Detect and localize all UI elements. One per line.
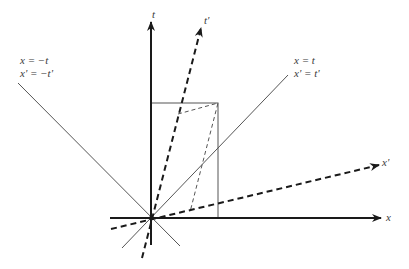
- x-prime-axis-label: x': [382, 156, 389, 169]
- light-line-left-label: x = −t x' = −t': [20, 54, 53, 80]
- rest-frame-box: [151, 103, 218, 218]
- light-line-left: [18, 83, 180, 246]
- diagram-canvas: [0, 0, 409, 269]
- spacetime-diagram: t t' x x' x = t x' = t' x = −t x' = −t': [0, 0, 409, 269]
- light-line-left-eq1: x = −t: [20, 54, 53, 67]
- light-line-right-eq1: x = t: [294, 54, 320, 67]
- x-axis-label: x: [386, 211, 391, 224]
- t-prime-axis-label: t': [204, 14, 209, 27]
- boosted-parallelogram: [178, 103, 218, 212]
- origin-point: [149, 216, 153, 220]
- light-line-right-eq2: x' = t': [294, 67, 320, 80]
- light-line-right-label: x = t x' = t': [294, 54, 320, 80]
- t-axis-label: t: [152, 8, 155, 21]
- light-line-left-eq2: x' = −t': [20, 67, 53, 80]
- light-line-right: [122, 75, 288, 248]
